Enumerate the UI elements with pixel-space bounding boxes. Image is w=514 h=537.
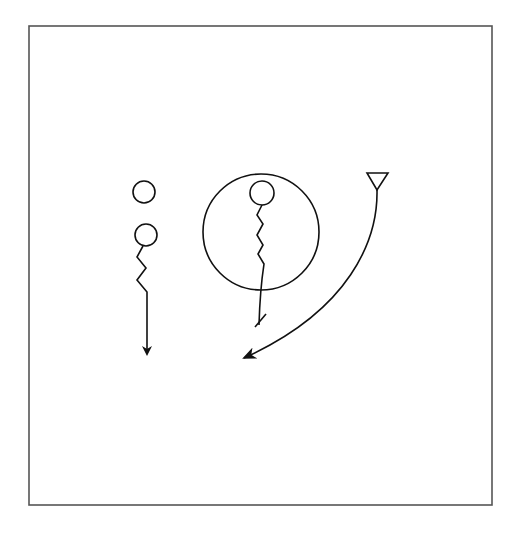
dribble-center-path [257, 205, 264, 325]
stop-bar-icon [255, 314, 266, 327]
player-left-bottom-icon [135, 224, 157, 246]
run-path-arrow [244, 190, 377, 358]
zone-circle-icon [203, 174, 319, 290]
dribble-left-arrow [137, 246, 147, 354]
player-left-top-icon [133, 181, 155, 203]
diagram-frame [29, 26, 492, 505]
cone-triangle-icon [367, 173, 388, 190]
diagram-svg [0, 0, 514, 537]
diagram-canvas [0, 0, 514, 537]
player-center-icon [250, 181, 274, 205]
